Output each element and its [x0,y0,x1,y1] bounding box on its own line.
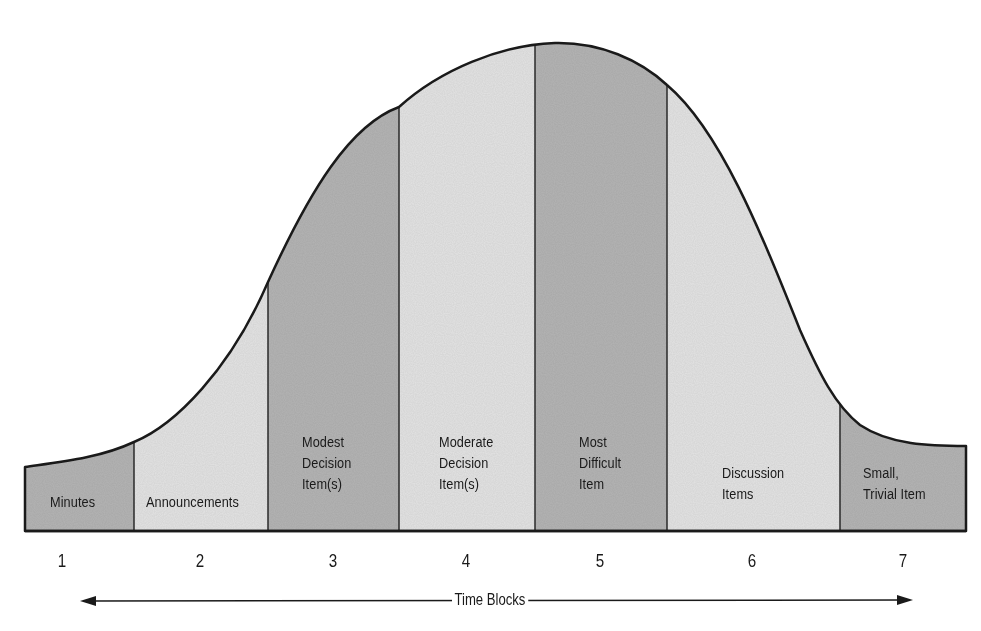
tick-label-5: 5 [588,550,612,572]
arrow-left-icon [80,596,96,606]
tick-label-7: 7 [891,550,915,572]
tick-label-1: 1 [50,550,74,572]
segment-label-modest-decision: Modest Decision Item(s) [302,431,351,494]
segment-label-small-trivial: Small, Trivial Item [863,462,926,504]
segment-label-minutes: Minutes [50,491,95,512]
tick-label-6: 6 [740,550,764,572]
segment-label-discussion: Discussion Items [722,462,784,504]
tick-label-2: 2 [188,550,212,572]
segment-fills [25,0,966,531]
segment-label-moderate-decision: Moderate Decision Item(s) [439,431,493,494]
segment-label-most-difficult: Most Difficult Item [579,431,621,494]
tick-label-4: 4 [454,550,478,572]
tick-label-3: 3 [321,550,345,572]
bell-curve-diagram [0,0,981,631]
axis-title-time-blocks: Time Blocks [452,591,528,609]
segment-label-announcements: Announcements [146,491,239,512]
arrow-right-icon [897,595,913,605]
